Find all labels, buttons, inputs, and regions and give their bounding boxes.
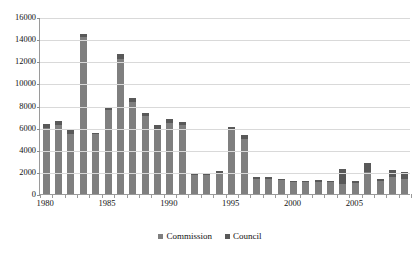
bar-segment-commission <box>339 184 346 194</box>
x-tick-mark <box>312 194 313 198</box>
legend-swatch-icon <box>158 234 163 239</box>
y-tick-mark <box>37 40 40 41</box>
y-axis-tick-label: 6000 <box>19 125 36 133</box>
bar-group <box>67 130 74 194</box>
y-axis-tick-label: 14000 <box>15 36 36 44</box>
y-tick-mark <box>37 129 40 130</box>
legend-item[interactable]: Commission <box>158 232 212 241</box>
x-axis-tick-label: 1985 <box>98 199 115 208</box>
bar-group <box>55 121 62 194</box>
bar-segment-commission <box>327 182 334 194</box>
bar-group <box>216 171 223 194</box>
bar-segment-commission <box>364 172 371 194</box>
plot-area <box>39 18 410 195</box>
gridline <box>40 62 410 63</box>
bar-group <box>352 181 359 194</box>
bar-segment-commission <box>389 177 396 194</box>
bar-group <box>154 125 161 194</box>
bar-group <box>278 179 285 194</box>
x-axis-tick-label: 2005 <box>346 199 363 208</box>
y-tick-mark <box>37 173 40 174</box>
bar-segment-commission <box>315 182 322 194</box>
bar-group <box>377 179 384 194</box>
y-tick-mark <box>37 84 40 85</box>
bar-segment-commission <box>129 102 136 194</box>
bar-segment-commission <box>377 181 384 194</box>
x-tick-mark <box>89 194 90 198</box>
gridline <box>40 84 410 85</box>
bar-segment-commission <box>105 110 112 194</box>
bar-segment-council <box>364 163 371 172</box>
bar-group <box>327 181 334 194</box>
x-tick-mark <box>411 194 412 198</box>
gridline <box>40 129 410 130</box>
bar-segment-commission <box>179 125 186 194</box>
bar-segment-commission <box>216 174 223 194</box>
bar-segment-commission <box>228 130 235 194</box>
bar-group <box>228 127 235 194</box>
bar-segment-commission <box>43 128 50 194</box>
y-tick-mark <box>37 151 40 152</box>
bar-segment-commission <box>265 179 272 194</box>
bar-group <box>302 181 309 194</box>
bar-segment-commission <box>253 179 260 194</box>
bar-segment-commission <box>302 182 309 194</box>
legend-label: Commission <box>166 232 212 241</box>
bar-segment-commission <box>352 183 359 194</box>
bar-segment-commission <box>191 175 198 194</box>
x-tick-mark <box>399 194 400 198</box>
legend-item[interactable]: Council <box>225 232 262 241</box>
x-tick-mark <box>250 194 251 198</box>
bar-segment-commission <box>166 123 173 194</box>
y-axis-tick-label: 4000 <box>19 147 36 155</box>
y-tick-mark <box>37 18 40 19</box>
x-tick-mark <box>139 194 140 198</box>
y-axis-tick-label: 0 <box>32 191 36 199</box>
bar-segment-commission <box>401 179 408 194</box>
bar-group <box>203 173 210 194</box>
bar-segment-commission <box>67 134 74 194</box>
y-axis-tick-label: 2000 <box>19 169 36 177</box>
bar-chart: 0200040006000800010000120001400016000 19… <box>0 0 420 261</box>
bar-group <box>166 119 173 194</box>
x-tick-mark <box>188 194 189 198</box>
x-tick-mark <box>151 194 152 198</box>
bar-segment-commission <box>92 134 99 194</box>
bar-group <box>265 177 272 194</box>
bar-group <box>253 177 260 194</box>
gridline <box>40 107 410 108</box>
x-tick-mark <box>213 194 214 198</box>
x-tick-mark <box>386 194 387 198</box>
bar-group <box>290 181 297 194</box>
x-axis-tick-label: 1995 <box>222 199 239 208</box>
y-axis-tick-label: 10000 <box>15 80 36 88</box>
y-tick-mark <box>37 107 40 108</box>
bar-segment-commission <box>55 125 62 194</box>
bar-group <box>401 172 408 194</box>
x-axis-tick-label: 2000 <box>284 199 301 208</box>
x-axis-tick-label: 1990 <box>160 199 177 208</box>
y-tick-mark <box>37 62 40 63</box>
gridline <box>40 40 410 41</box>
bar-group <box>129 98 136 194</box>
x-tick-mark <box>201 194 202 198</box>
x-tick-mark <box>374 194 375 198</box>
gridline <box>40 173 410 174</box>
x-tick-mark <box>263 194 264 198</box>
bar-group <box>191 173 198 194</box>
legend-swatch-icon <box>225 234 230 239</box>
x-tick-mark <box>65 194 66 198</box>
bar-segment-commission <box>154 129 161 194</box>
bar-group <box>92 133 99 194</box>
bar-group <box>241 135 248 194</box>
legend-label: Council <box>233 232 262 241</box>
x-tick-mark <box>77 194 78 198</box>
gridline <box>40 18 410 19</box>
x-tick-mark <box>127 194 128 198</box>
x-axis-tick-label: 1980 <box>37 199 54 208</box>
y-axis-tick-label: 8000 <box>19 103 36 111</box>
bar-segment-commission <box>203 175 210 194</box>
x-tick-mark <box>337 194 338 198</box>
bar-group <box>80 34 87 194</box>
bar-segment-council <box>339 169 346 184</box>
